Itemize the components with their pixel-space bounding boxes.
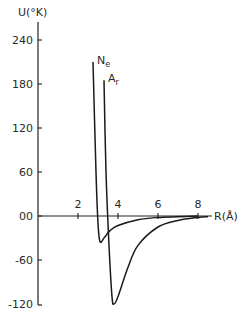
x-tick-label: 2 <box>75 198 82 211</box>
series-label-ar: Ar <box>108 72 120 87</box>
x-tick-label: 8 <box>195 198 202 211</box>
curve-ar <box>104 80 208 304</box>
x-tick-label: 6 <box>155 198 162 211</box>
curve-ne <box>93 62 198 242</box>
series-labels: NeAr <box>97 54 120 87</box>
y-ticks: 2401801206000-60-120 <box>8 34 42 311</box>
y-tick-label: 240 <box>12 34 33 47</box>
y-tick-label: 60 <box>19 166 33 179</box>
y-tick-label: 180 <box>12 78 33 91</box>
x-tick-label: 4 <box>115 198 122 211</box>
y-tick-label: -60 <box>15 254 33 267</box>
y-tick-label: 120 <box>12 122 33 135</box>
x-axis-label: R(Å) <box>214 210 238 223</box>
y-tick-label: -120 <box>8 298 33 311</box>
potential-energy-chart: 2401801206000-60-120 2468 U(°K) R(Å) NeA… <box>0 0 250 321</box>
curves <box>93 62 208 304</box>
y-axis-label: U(°K) <box>18 6 47 19</box>
y-tick-label: 00 <box>19 210 33 223</box>
y-axis <box>38 22 42 305</box>
series-label-ne: Ne <box>97 54 110 69</box>
